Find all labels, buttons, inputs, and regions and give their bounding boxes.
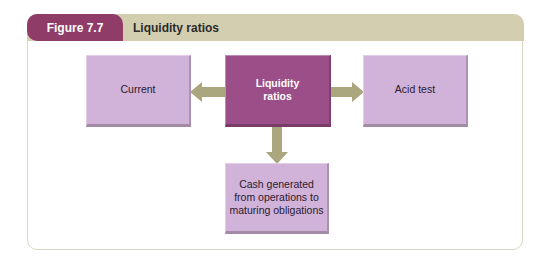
current-ratio-box: Current (86, 55, 191, 127)
current-ratio-label: Current (120, 83, 155, 96)
acid-test-label: Acid test (395, 83, 435, 96)
cash-generated-label-line1: Cash generated (230, 178, 324, 191)
liquidity-ratios-label-line2: ratios (256, 90, 300, 103)
figure-number-tag: Figure 7.7 (27, 14, 123, 41)
cash-generated-box: Cash generated from operations to maturi… (225, 163, 329, 234)
arrow-right-icon (330, 82, 364, 102)
arrow-left-icon (190, 82, 226, 102)
figure-number-label: Figure 7.7 (47, 21, 104, 35)
cash-generated-label-line3: maturing obligations (230, 204, 324, 217)
liquidity-ratios-box: Liquidity ratios (225, 55, 331, 127)
liquidity-ratios-label-line1: Liquidity (256, 77, 300, 90)
figure-title: Liquidity ratios (133, 14, 219, 41)
arrow-down-icon (266, 127, 288, 164)
acid-test-box: Acid test (363, 55, 468, 127)
cash-generated-label-line2: from operations to (230, 191, 324, 204)
